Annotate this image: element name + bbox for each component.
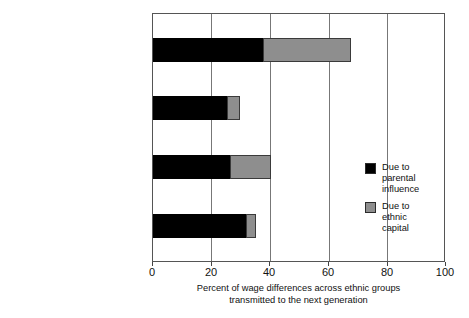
bar-segment-parental-2 xyxy=(153,155,230,179)
legend-swatch-parental-icon xyxy=(365,163,376,174)
legend-label-ethnic: Due to ethnic capital xyxy=(382,201,455,235)
xtick-label-60: 60 xyxy=(308,266,348,278)
legend-label-parental: Due to parental influence xyxy=(382,162,455,196)
legend-swatch-ethnic-icon xyxy=(365,202,376,213)
bar-segment-ethnic-1 xyxy=(227,96,240,120)
xtick-label-0: 0 xyxy=(132,266,172,278)
x-axis-title: Percent of wage differences across ethni… xyxy=(152,282,445,306)
bar-segment-ethnic-3 xyxy=(246,214,256,238)
bar-segment-parental-0 xyxy=(153,38,263,62)
xtick-label-20: 20 xyxy=(191,266,231,278)
bar-segment-ethnic-0 xyxy=(263,38,351,62)
bar-segment-parental-3 xyxy=(153,214,246,238)
xtick-label-100: 100 xyxy=(425,266,465,278)
chart-legend: Due to parental influence Due to ethnic … xyxy=(365,162,455,239)
legend-item-ethnic: Due to ethnic capital xyxy=(365,201,455,235)
chart-figure: Correlation in wages across generations … xyxy=(0,0,469,318)
bar-segment-ethnic-2 xyxy=(230,155,271,179)
legend-item-parental: Due to parental influence xyxy=(365,162,455,196)
x-axis-title-line-0: Percent of wage differences across ethni… xyxy=(152,282,445,294)
plot-area: Due to parental influence Due to ethnic … xyxy=(152,13,445,262)
xtick-label-80: 80 xyxy=(367,266,407,278)
x-axis-title-line-1: transmitted to the next generation xyxy=(152,294,445,306)
bar-segment-parental-1 xyxy=(153,96,227,120)
xtick-label-40: 40 xyxy=(249,266,289,278)
